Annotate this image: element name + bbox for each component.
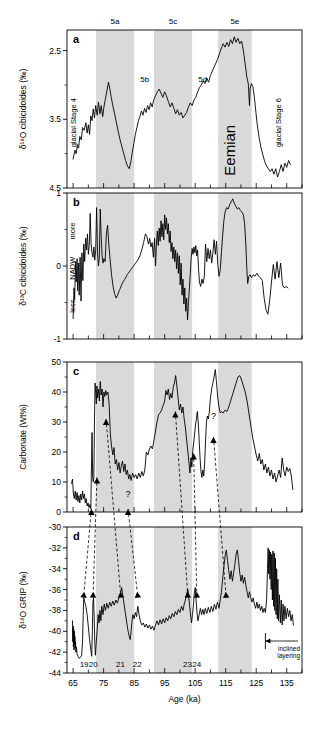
xaxis-tick-label: 95 <box>160 678 170 688</box>
panel-b-ylabel: δ¹³C cibicidoides (‰) <box>18 226 28 306</box>
do-event-label-21: 21 <box>116 660 125 669</box>
panel-c-ytick-label: 10 <box>52 477 62 487</box>
inline-label: more <box>68 222 77 239</box>
stage-band-5e <box>218 362 252 512</box>
inclined-layering-note-line2: layering <box>277 652 300 660</box>
do-event-label-19: 19 <box>80 660 89 669</box>
correlation-arrow <box>194 454 197 592</box>
panel-letter-b: b <box>73 196 80 208</box>
do-event-label-24: 24 <box>192 660 201 669</box>
panel-c-ytick-label: 30 <box>52 417 62 427</box>
do-event-label-23: 23 <box>183 660 192 669</box>
inline-label: glacial Stage 6 <box>274 98 283 147</box>
panel-d-ytick-label: -40 <box>49 626 62 636</box>
do-event-label-22: 22 <box>133 660 142 669</box>
correlation-arrowhead <box>134 591 141 598</box>
stage-band-5c <box>154 527 192 673</box>
panel-d-ytick-label: -30 <box>49 522 62 532</box>
panel-d-ytick-label: -32 <box>49 543 62 553</box>
panel-c-ytick-label: 50 <box>52 357 62 367</box>
inline-label: 5b <box>140 75 149 84</box>
inclined-layering-arrowhead <box>265 639 270 644</box>
inline-label: glacial Stage 4 <box>69 98 78 147</box>
panel-b-ytick-label: -1 <box>53 334 61 344</box>
panel-a-ytick-label: 2.5 <box>49 46 61 56</box>
panel-b-ytick-label: 0 <box>56 261 61 271</box>
xaxis-tick-label: 85 <box>129 678 139 688</box>
uncertainty-marker: ? <box>211 411 216 421</box>
panel-c-ytick-label: 40 <box>52 387 62 397</box>
inclined-layering-note-line1: inclined <box>278 645 300 652</box>
correlation-arrowhead <box>80 591 87 598</box>
correlation-arrow <box>84 509 91 592</box>
stage-band-5c <box>154 30 192 188</box>
xaxis-tick-label: 135 <box>280 678 294 688</box>
panel-d-ytick-label: -34 <box>49 564 62 574</box>
xaxis-tick-label: 115 <box>219 678 233 688</box>
stage-band-label-5c: 5c <box>169 17 177 26</box>
correlation-arrowhead <box>90 592 97 598</box>
do-event-label-20: 20 <box>89 660 98 669</box>
panel-c-ytick-label: 20 <box>52 447 62 457</box>
xaxis-tick-label: 65 <box>68 678 78 688</box>
multi-panel-paleoclimate-figure: 5a5c5e2.53.54.5δ¹⁸O cibicidoides (‰)agla… <box>0 0 321 729</box>
xaxis-tick-label: 105 <box>188 678 202 688</box>
xaxis-tick-label: 75 <box>99 678 109 688</box>
panel-d-ytick-label: -38 <box>49 605 62 615</box>
panel-d-ytick-label: -44 <box>49 668 62 678</box>
panel-c-ytick-label: 0 <box>56 507 61 517</box>
figure-container: 5a5c5e2.53.54.5δ¹⁸O cibicidoides (‰)agla… <box>0 0 321 729</box>
panel-letter-c: c <box>73 365 79 377</box>
inline-label: less <box>68 299 77 313</box>
xaxis-label: Age (ka) <box>168 694 200 704</box>
stage-band-5c <box>154 193 192 339</box>
panel-b-ytick-label: 1 <box>56 188 61 198</box>
stage-band-5a <box>96 193 134 339</box>
stage-band-label-5a: 5a <box>111 17 120 26</box>
panel-letter-d: d <box>73 530 80 542</box>
panel-letter-a: a <box>73 33 80 45</box>
panel-a-ytick-label: 3.5 <box>49 114 61 124</box>
inline-label: Eemian <box>221 125 238 176</box>
panel-d-ytick-label: -36 <box>49 585 62 595</box>
stage-band-5a <box>96 527 134 673</box>
panel-d-ylabel: δ¹⁸O GRIP (‰) <box>18 571 28 628</box>
xaxis-tick-label: 125 <box>249 678 263 688</box>
correlation-arrow-tail-marker <box>210 437 216 443</box>
panel-c-ylabel: Carbonate (Wt%) <box>18 404 28 470</box>
stage-band-5e <box>218 527 252 673</box>
uncertainty-marker: ? <box>126 489 131 499</box>
stage-band-label-5e: 5e <box>230 17 239 26</box>
panel-a-ylabel: δ¹⁸O cibicidoides (‰) <box>18 69 28 150</box>
panel-d-ytick-label: -42 <box>49 647 62 657</box>
